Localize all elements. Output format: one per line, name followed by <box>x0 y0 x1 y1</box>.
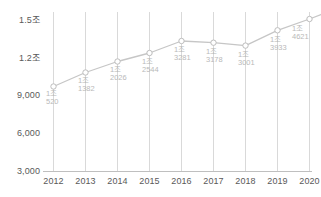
data-label-2020-number: 4621 <box>292 33 309 41</box>
data-label-2019: 1조 3933 <box>270 36 287 52</box>
xtick-label-2016: 2016 <box>171 176 191 186</box>
data-label-2018-number: 3001 <box>238 59 255 67</box>
data-point-2018 <box>243 43 248 48</box>
xtick-label-2013: 2013 <box>75 176 95 186</box>
data-point-2017 <box>211 40 216 45</box>
data-point-2013 <box>83 70 88 75</box>
ytick-label-4: 3,000 <box>4 166 40 176</box>
data-label-2015-number: 2544 <box>142 66 159 74</box>
data-point-2016 <box>179 38 184 43</box>
data-label-2014-number: 2026 <box>110 74 127 82</box>
data-label-2017-number: 3178 <box>206 56 223 64</box>
xtick-label-2017: 2017 <box>203 176 223 186</box>
ytick-label-1: 1.2조 <box>8 51 40 64</box>
data-label-2018: 1조 3001 <box>238 51 255 67</box>
ytick-label-0: 1.5조 <box>8 13 40 26</box>
data-label-2013-number: 1382 <box>78 85 95 93</box>
ytick-label-3: 6,000 <box>4 128 40 138</box>
data-label-2013: 1조 1382 <box>78 77 95 93</box>
line-chart: 1.5조 1.2조 9,000 6,000 3,000 2012 2013 20… <box>0 0 321 197</box>
data-label-2016-number: 3281 <box>174 54 191 62</box>
data-point-2019 <box>275 28 280 33</box>
xtick-label-2014: 2014 <box>107 176 127 186</box>
data-label-2019-number: 3933 <box>270 44 287 52</box>
data-label-2012: 1조 520 <box>46 90 59 106</box>
xtick-label-2015: 2015 <box>139 176 159 186</box>
xtick-label-2020: 2020 <box>299 176 319 186</box>
data-label-2016: 1조 3281 <box>174 46 191 62</box>
data-label-2015: 1조 2544 <box>142 58 159 74</box>
data-label-2017: 1조 3178 <box>206 48 223 64</box>
data-label-2020: 1조 4621 <box>292 25 309 41</box>
data-point-2015 <box>147 50 152 55</box>
xtick-label-2012: 2012 <box>43 176 63 186</box>
data-point-2020 <box>307 16 312 21</box>
data-label-2014: 1조 2026 <box>110 66 127 82</box>
xtick-label-2019: 2019 <box>267 176 287 186</box>
data-point-2014 <box>115 59 120 64</box>
xtick-label-2018: 2018 <box>235 176 255 186</box>
ytick-label-2: 9,000 <box>4 90 40 100</box>
data-label-2012-number: 520 <box>46 98 59 106</box>
